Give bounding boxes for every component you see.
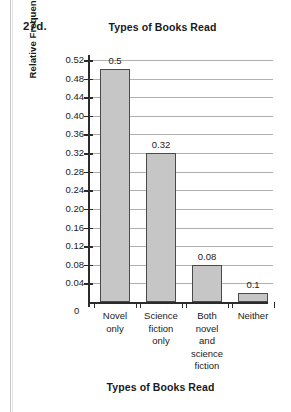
bar [146,153,176,302]
bar-value-label: 0.1 [228,279,278,290]
y-axis-tick-label: 0.08 [52,259,84,270]
x-axis-tick [182,302,183,308]
y-axis-tick-label: 0.32 [52,147,84,158]
page-edge-rule-secondary [12,0,13,412]
y-axis-tick-label: 0.40 [52,110,84,121]
x-axis-tick [232,302,233,308]
y-axis-tick [84,283,93,285]
page-edge-rule [10,0,11,412]
x-axis-tick [228,302,229,308]
category-label-line: fiction [179,360,235,373]
y-axis-tick-label: 0.12 [52,240,84,251]
y-axis-tick [84,209,93,211]
y-axis-tick [84,116,93,118]
y-axis-tick [84,228,93,230]
bar-value-label: 0.08 [182,251,232,262]
y-axis-tick-labels: 0.520.480.440.400.360.320.280.240.200.16… [48,55,84,307]
y-axis-tick-label: 0.24 [52,184,84,195]
x-axis-tick [94,302,95,308]
chart-title: Types of Books Read [0,21,291,33]
y-axis-tick-label: 0.20 [52,203,84,214]
y-axis-tick [84,134,93,136]
y-axis-tick [84,97,93,99]
y-axis-tick-label: 0.28 [52,166,84,177]
y-axis-tick-label: 0.16 [52,222,84,233]
y-axis-tick [84,190,93,192]
y-axis-line [88,55,90,307]
x-axis-tick [274,302,275,308]
plot-area: 0.50.320.080.1 [88,55,273,307]
y-axis-tick-label: 0.36 [52,128,84,139]
x-axis-title: Types of Books Read [0,381,291,393]
y-axis-tick [84,246,93,248]
bar [100,69,130,302]
y-axis-tick-label: 0.52 [52,54,84,65]
y-axis-tick [84,153,93,155]
bar-value-label: 0.32 [136,139,186,150]
y-axis-tick-label: 0.44 [52,91,84,102]
x-axis-tick [186,302,187,308]
bar [192,265,222,302]
y-axis-title: Relative Frequency (%) [27,0,38,105]
y-axis-tick-label: 0.48 [52,73,84,84]
x-axis-line [88,302,268,304]
category-label-line: and [179,335,235,348]
bar [238,293,268,302]
x-axis-tick [140,302,141,308]
bar-value-label: 0.5 [90,55,140,66]
category-label-line: science [179,348,235,361]
y-axis-tick [84,172,93,174]
x-axis-category-label: Neither [225,310,281,323]
y-axis-tick [84,265,93,267]
y-axis-tick-label: 0.04 [52,277,84,288]
category-label-line: Neither [225,310,281,323]
category-label-line: novel [179,323,235,336]
x-axis-tick [136,302,137,308]
y-axis-tick [84,79,93,81]
origin-label: 0 [74,305,79,316]
